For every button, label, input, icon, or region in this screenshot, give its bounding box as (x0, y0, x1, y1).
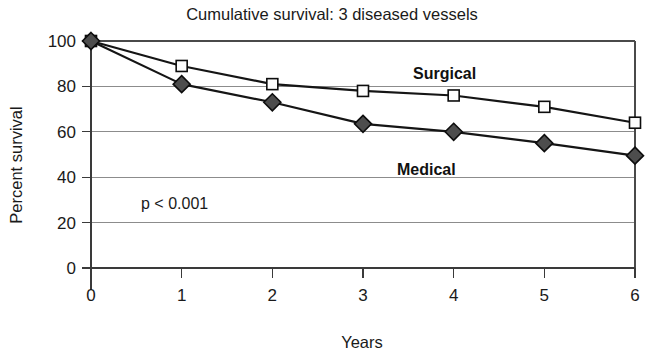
series-line-medical (91, 41, 635, 156)
y-axis-title: Percent survival (7, 106, 25, 223)
x-tick-label: 3 (358, 286, 367, 305)
y-tick-marks (82, 41, 91, 268)
x-tick-label: 4 (449, 286, 458, 305)
x-tick-label: 0 (86, 286, 95, 305)
data-point-marker (173, 76, 190, 93)
x-tick-label: 5 (540, 286, 549, 305)
data-point-marker (358, 85, 369, 96)
series-line-surgical (91, 41, 635, 123)
y-tick-label: 20 (57, 214, 76, 233)
plot-frame (91, 41, 635, 268)
data-point-marker (264, 94, 281, 111)
y-tick-label: 80 (57, 77, 76, 96)
p-value-annotation: p < 0.001 (141, 195, 208, 212)
survival-chart-figure: Cumulative survival: 3 diseased vessels … (0, 0, 664, 353)
y-tick-labels: 0 20 40 60 80 100 (48, 32, 76, 278)
gridlines (91, 41, 635, 268)
series-label-medical: Medical (397, 161, 456, 178)
data-point-marker (536, 135, 553, 152)
x-axis-title: Years (341, 333, 383, 351)
data-point-marker (448, 90, 459, 101)
series-medical (83, 33, 644, 165)
y-tick-label: 40 (57, 168, 76, 187)
data-point-marker (355, 115, 372, 132)
y-tick-label: 0 (67, 259, 76, 278)
data-point-marker (539, 101, 550, 112)
data-point-marker (627, 147, 644, 164)
chart-svg: Cumulative survival: 3 diseased vessels … (0, 0, 664, 353)
x-tick-labels: 0 1 2 3 4 5 6 (86, 286, 639, 305)
y-tick-label: 100 (48, 32, 76, 51)
y-tick-label: 60 (57, 123, 76, 142)
x-tick-label: 1 (177, 286, 186, 305)
data-point-marker (445, 123, 462, 140)
data-series-layer (83, 33, 644, 165)
x-tick-label: 6 (630, 286, 639, 305)
data-point-marker (176, 60, 187, 71)
x-tick-label: 2 (268, 286, 277, 305)
x-tick-marks (91, 268, 635, 278)
series-label-surgical: Surgical (413, 65, 476, 82)
chart-title: Cumulative survival: 3 diseased vessels (186, 5, 478, 23)
data-point-marker (267, 79, 278, 90)
data-point-marker (630, 117, 641, 128)
